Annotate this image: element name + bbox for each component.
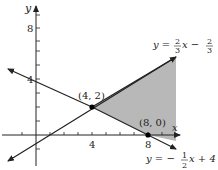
svg-text:2: 2 [175,37,180,46]
svg-text:2: 2 [182,161,187,170]
tick-label-y4: 4 [27,74,33,85]
svg-text:2: 2 [207,37,212,46]
point-4-2 [89,104,94,109]
svg-text:y = −: y = − [145,153,175,164]
x-axis-label: x [172,122,178,133]
svg-text:3: 3 [207,46,212,55]
svg-text:3: 3 [175,46,180,55]
svg-text:x −: x − [182,39,199,50]
point-8-0 [145,132,150,137]
equation-increasing: y = 2 3 x − 2 3 [152,37,213,55]
graph: y x 8 4 4 8 (4, 2) (8, 0) y = 2 3 x − 2 … [0,0,218,170]
point-label-4-2: (4, 2) [78,90,105,101]
tick-label-y8: 8 [27,23,33,34]
y-axis-label: y [24,2,32,15]
point-label-8-0: (8, 0) [139,117,166,128]
equation-decreasing: y = − 1 2 x + 4 [145,151,216,170]
svg-text:1: 1 [182,151,187,160]
line-decreasing [8,69,92,107]
svg-text:y =: y = [152,39,170,50]
tick-label-x8: 8 [145,139,151,150]
svg-text:x + 4: x + 4 [189,153,216,164]
tick-label-x4: 4 [89,139,95,150]
